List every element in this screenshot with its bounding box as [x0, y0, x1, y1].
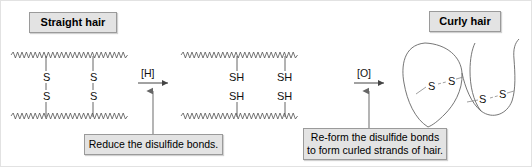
- strand-top-reduced: [181, 52, 298, 58]
- bond-curl-left: [416, 87, 426, 94]
- strand-bottom-reduced: [181, 113, 298, 119]
- label-straight-hair: Straight hair: [29, 12, 117, 33]
- label-curly-hair: Curly hair: [429, 11, 501, 32]
- hair-disulfide-diagram: S S S S SH SH SH SH S S S S [H] [O] Stra…: [0, 0, 532, 167]
- straight-hair-strands: [11, 52, 128, 119]
- curly-hair-strands: [403, 39, 519, 127]
- atom-label-s-left-bottom: S: [42, 90, 51, 102]
- label-straight-hair-text: Straight hair: [41, 16, 106, 29]
- caption-reduce-disulfide-bonds: Reduce the disulfide bonds.: [84, 134, 223, 155]
- atom-label-sh-right-bottom: SH: [276, 90, 293, 102]
- atom-label-s-curl1-left: S: [427, 80, 436, 92]
- caption-reform-line1: Re-form the disulfide bonds: [311, 131, 439, 144]
- caption-reduce-line1: Reduce the disulfide bonds.: [89, 138, 219, 151]
- reaction-arrow-oxidation: [354, 83, 384, 128]
- strand-top-straight: [11, 52, 128, 58]
- reduced-hair-strands: [181, 52, 298, 119]
- atom-label-s-curl2-left: S: [478, 93, 487, 105]
- reagent-label-reduction: [H]: [141, 67, 154, 79]
- strand-curl-left: [403, 43, 428, 127]
- atom-label-sh-left-top: SH: [228, 71, 245, 83]
- label-curly-hair-text: Curly hair: [439, 15, 490, 28]
- atom-label-s-right-bottom: S: [89, 90, 98, 102]
- atom-label-sh-right-top: SH: [276, 71, 293, 83]
- atom-label-sh-left-bottom: SH: [228, 90, 245, 102]
- strand-bottom-straight: [11, 113, 128, 119]
- caption-reform-line2: to form curled strands of hair.: [307, 144, 443, 157]
- caption-reform-disulfide-bonds: Re-form the disulfide bonds to form curl…: [303, 128, 447, 160]
- atom-label-s-left-top: S: [42, 71, 51, 83]
- atom-label-s-right-top: S: [89, 71, 98, 83]
- reaction-arrow-reduction: [138, 83, 168, 134]
- reagent-label-oxidation: [O]: [357, 67, 371, 79]
- atom-label-s-curl1-right: S: [447, 75, 456, 87]
- atom-label-s-curl2-right: S: [498, 88, 507, 100]
